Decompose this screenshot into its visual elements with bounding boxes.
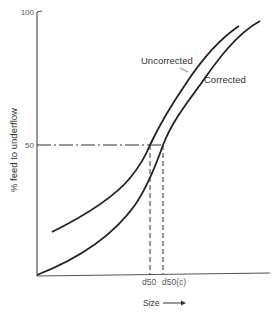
corrected-label: Corrected: [204, 74, 246, 85]
uncorrected-leader: [180, 68, 188, 72]
y-tick-100: [37, 11, 42, 12]
y-tick-label-100: 100: [21, 8, 35, 17]
d50c-label: d50(c): [162, 277, 186, 287]
size-arrow-icon: [181, 301, 186, 306]
x-axis: [37, 273, 270, 276]
partition-curve-chart: 100 50 % feed to underflow Uncorrected C…: [0, 0, 279, 315]
uncorrected-label: Uncorrected: [141, 55, 193, 66]
d50-label: d50: [142, 277, 156, 287]
y-tick-label-50: 50: [25, 141, 34, 150]
x-axis-label: Size: [143, 298, 160, 308]
y-axis-label: % feed to underflow: [8, 108, 19, 192]
